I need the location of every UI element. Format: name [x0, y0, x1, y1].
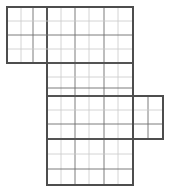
- grid-svg-canvas: [0, 0, 172, 191]
- grid-figure: [0, 0, 172, 191]
